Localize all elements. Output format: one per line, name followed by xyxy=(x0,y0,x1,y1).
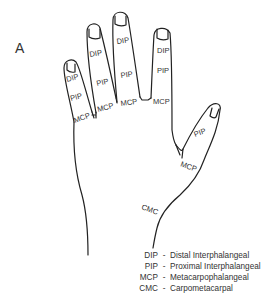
legend-abbr: PIP xyxy=(128,261,158,272)
legend-abbr: DIP xyxy=(128,250,158,261)
legend-term: Distal Interphalangeal xyxy=(170,250,249,261)
legend-separator: - xyxy=(158,250,170,261)
thumb-outline xyxy=(153,104,220,248)
middle-finger-nail xyxy=(115,16,126,26)
index-mcp-label: MCP xyxy=(153,97,170,106)
legend-abbr: MCP xyxy=(128,272,158,283)
little-dip-label: DIP xyxy=(65,72,79,84)
little-pip-label: PIP xyxy=(69,91,83,103)
ring-dip-label: DIP xyxy=(89,48,103,59)
legend-item: PIP - Proximal Interphalangeal xyxy=(128,261,261,272)
middle-mcp-label: MCP xyxy=(120,97,138,108)
legend-term: Carpometacarpal xyxy=(170,283,233,294)
panel-label: A xyxy=(15,40,24,56)
legend-separator: - xyxy=(158,272,170,283)
little-mcp-label: MCP xyxy=(73,111,92,125)
legend-separator: - xyxy=(158,283,170,294)
hand-joint-diagram: DIP PIP MCP DIP PIP MCP DIP PIP MCP DIP … xyxy=(0,0,265,297)
index-pip-label: PIP xyxy=(157,66,169,75)
joint-legend: DIP - Distal Interphalangeal PIP - Proxi… xyxy=(128,250,261,294)
ring-pip-label: PIP xyxy=(96,77,110,88)
ring-finger-outline xyxy=(87,24,116,113)
legend-item: CMC - Carpometacarpal xyxy=(128,283,261,294)
legend-item: MCP - Metacarpophalangeal xyxy=(128,272,261,283)
legend-term: Metacarpophalangeal xyxy=(170,272,249,283)
thumb-web-creases xyxy=(176,145,183,158)
ring-finger-nail xyxy=(89,29,100,39)
ring-mcp-label: MCP xyxy=(96,101,114,114)
middle-dip-label: DIP xyxy=(116,35,130,46)
middle-finger-outline xyxy=(113,12,140,102)
index-dip-label: DIP xyxy=(157,46,170,55)
middle-pip-label: PIP xyxy=(120,69,133,80)
legend-abbr: CMC xyxy=(128,283,158,294)
thumb-cmc-label: CMC xyxy=(140,202,160,216)
legend-term: Proximal Interphalangeal xyxy=(170,261,261,272)
palm-left-edge xyxy=(74,122,88,255)
thumb-nail xyxy=(210,108,219,118)
little-finger-nail xyxy=(67,63,75,72)
middle-index-web xyxy=(140,97,151,100)
legend-separator: - xyxy=(158,261,170,272)
thumb-mcp-label: MCP xyxy=(179,159,198,173)
index-finger-nail xyxy=(157,29,168,40)
legend-item: DIP - Distal Interphalangeal xyxy=(128,250,261,261)
